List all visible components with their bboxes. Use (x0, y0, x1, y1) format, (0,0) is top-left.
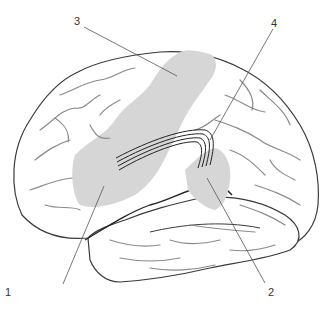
brain-illustration (0, 0, 331, 310)
label-2: 2 (268, 287, 274, 298)
label-3: 3 (74, 16, 80, 27)
label-1: 1 (5, 287, 11, 298)
brain-diagram: 1 2 3 4 (0, 0, 331, 310)
label-4: 4 (271, 18, 277, 29)
